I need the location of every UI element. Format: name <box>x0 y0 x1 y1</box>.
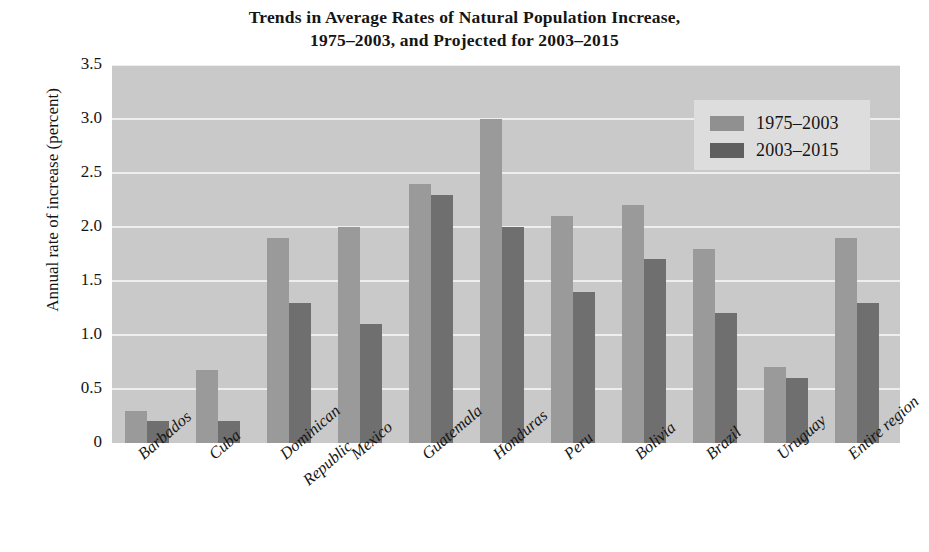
bar <box>480 119 502 443</box>
y-axis-tick-label: 0 <box>36 432 102 452</box>
y-axis-tick-label: 2.0 <box>36 216 102 236</box>
bar <box>644 259 666 443</box>
light-gray-swatch-icon <box>710 116 744 131</box>
chart-page: Trends in Average Rates of Natural Popul… <box>0 0 929 552</box>
dark-gray-swatch-icon <box>710 143 744 158</box>
legend-entry: 1975–2003 <box>710 111 870 135</box>
bar <box>502 227 524 443</box>
y-axis-title: Annual rate of increase (percent) <box>43 35 63 365</box>
legend-label: 1975–2003 <box>756 113 839 133</box>
y-axis-tick-label: 0.5 <box>36 378 102 398</box>
y-axis-tick-label: 3.5 <box>36 54 102 74</box>
bar <box>693 249 715 443</box>
gridline <box>112 172 900 174</box>
bar <box>267 238 289 443</box>
page-title: Trends in Average Rates of Natural Popul… <box>0 6 929 52</box>
y-axis-tick-label: 1.5 <box>36 270 102 290</box>
y-axis-tick-label: 2.5 <box>36 162 102 182</box>
bar <box>573 292 595 443</box>
chart-legend: 1975–2003 2003–2015 <box>694 100 870 170</box>
y-axis-tick-label: 3.0 <box>36 108 102 128</box>
bar <box>764 367 786 443</box>
gridline <box>112 65 900 66</box>
bar <box>196 370 218 443</box>
title-line-1: Trends in Average Rates of Natural Popul… <box>0 6 929 29</box>
bar <box>338 227 360 443</box>
bar <box>622 205 644 443</box>
legend-label: 2003–2015 <box>756 140 839 160</box>
y-axis-tick-label: 1.0 <box>36 324 102 344</box>
bar <box>409 184 431 443</box>
title-line-2: 1975–2003, and Projected for 2003–2015 <box>0 29 929 52</box>
bar <box>835 238 857 443</box>
bar <box>125 411 147 443</box>
legend-entry: 2003–2015 <box>710 138 870 162</box>
bar <box>551 216 573 443</box>
bar <box>431 195 453 443</box>
